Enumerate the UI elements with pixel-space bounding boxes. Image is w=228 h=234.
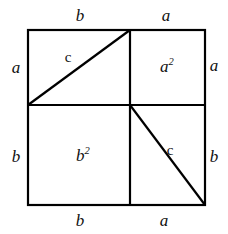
pythagorean-diagram: b a a b b a a b a2 b2 c c [0, 0, 228, 234]
label-area-b-squared-exponent: 2 [85, 145, 90, 156]
label-left-top-a: a [12, 59, 21, 76]
upper-hypotenuse-line [28, 30, 130, 105]
label-area-b-squared: b2 [76, 147, 90, 164]
label-top-left-b: b [76, 7, 85, 24]
label-lower-hypotenuse-c: c [167, 143, 174, 158]
label-bottom-left-b: b [76, 212, 85, 229]
label-left-bottom-b: b [12, 148, 21, 165]
label-area-a-squared-exponent: 2 [169, 56, 174, 67]
label-right-top-a: a [210, 57, 219, 74]
label-top-right-a: a [162, 7, 171, 24]
label-bottom-right-a: a [160, 212, 169, 229]
outer-square [28, 30, 205, 205]
label-right-bottom-b: b [210, 148, 219, 165]
label-upper-hypotenuse-c: c [65, 50, 72, 65]
label-area-a-squared: a2 [160, 58, 174, 75]
diagram-canvas [0, 0, 228, 234]
label-area-b-squared-base: b [76, 146, 85, 165]
label-area-a-squared-base: a [160, 57, 169, 76]
